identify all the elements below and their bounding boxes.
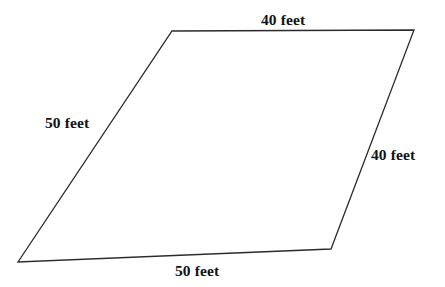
side-label-top: 40 feet bbox=[261, 12, 305, 28]
parallelogram-outline bbox=[18, 30, 414, 262]
side-label-right: 40 feet bbox=[371, 147, 415, 163]
side-label-left: 50 feet bbox=[45, 115, 89, 131]
parallelogram-shape bbox=[0, 0, 445, 287]
parallelogram-figure: 40 feet 40 feet 50 feet 50 feet bbox=[0, 0, 445, 287]
side-label-bottom: 50 feet bbox=[175, 263, 219, 279]
